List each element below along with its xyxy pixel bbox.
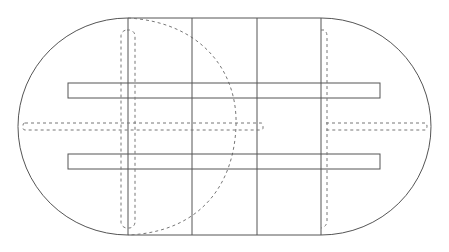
rail-top: [68, 83, 380, 98]
table-outline: [18, 18, 431, 235]
hidden-slide-right-horizontal: [326, 123, 427, 130]
table-diagram: [0, 0, 449, 252]
table-top-view-drawing: [0, 0, 449, 252]
hidden-slide-right-vertical: [321, 30, 327, 228]
hidden-slide-left-horizontal: [23, 123, 263, 130]
hidden-leaf-arc: [128, 18, 236, 235]
rail-bottom: [68, 154, 380, 169]
